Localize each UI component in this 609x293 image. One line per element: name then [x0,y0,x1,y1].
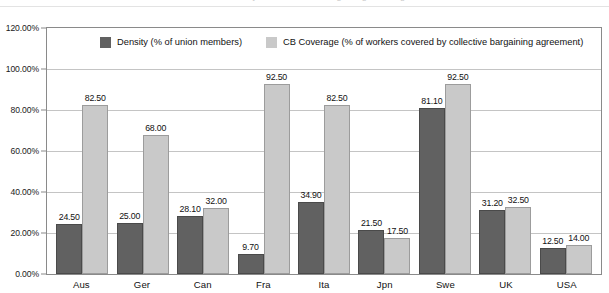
bar-usa-coverage[interactable]: 14.00 [566,245,592,274]
bar-usa-density[interactable]: 12.50 [540,248,566,274]
x-axis-tick-fra: Fra [233,276,294,293]
bars-container: 24.5082.5025.0068.0028.1032.009.7092.503… [47,28,601,274]
chart-legend: Density (% of union members)CB Coverage … [46,27,602,57]
bar-uk-density[interactable]: 31.20 [479,210,505,274]
bar-value-label: 34.90 [300,190,321,200]
legend-entry-cb-coverage[interactable]: CB Coverage (% of workers covered by col… [266,37,583,48]
bar-group-ger: 25.0068.00 [112,28,172,274]
x-axis-tick-ita: Ita [294,276,355,293]
bar-aus-coverage[interactable]: 82.50 [82,105,108,274]
x-axis-tick-swe: Swe [415,276,476,293]
plot-area: 24.5082.5025.0068.0028.1032.009.7092.503… [46,27,602,275]
bar-value-label: 25.00 [119,211,140,221]
bar-value-label: 21.50 [361,218,382,228]
bar-value-label: 81.10 [421,96,442,106]
bar-swe-coverage[interactable]: 92.50 [445,84,471,274]
bar-can-density[interactable]: 28.10 [177,216,203,274]
legend-label: Density (% of union members) [117,37,242,47]
bar-swe-density[interactable]: 81.10 [419,108,445,274]
legend-label: CB Coverage (% of workers covered by col… [283,37,583,47]
bar-value-label: 14.00 [568,233,589,243]
bar-value-label: 9.70 [242,242,258,252]
bar-value-label: 24.50 [59,212,80,222]
legend-swatch-icon [266,37,277,48]
bar-group-uk: 31.2032.50 [475,28,535,274]
y-axis-tick-label: 60.00% [10,146,39,156]
bar-group-fra: 9.7092.50 [233,28,293,274]
x-axis-tick-ger: Ger [112,276,173,293]
bar-value-label: 17.50 [387,226,408,236]
bar-group-swe: 81.1092.50 [415,28,475,274]
y-axis: 120.00%100.00%80.00%60.00%40.00%20.00%0.… [0,27,46,276]
bar-jpn-coverage[interactable]: 17.50 [384,238,410,274]
bar-value-label: 82.50 [85,93,106,103]
bar-ger-density[interactable]: 25.00 [117,223,143,274]
x-axis-tick-aus: Aus [51,276,112,293]
bar-value-label: 68.00 [145,123,166,133]
bar-value-label: 12.50 [542,236,563,246]
bar-jpn-density[interactable]: 21.50 [358,230,384,274]
bar-value-label: 82.50 [326,93,347,103]
bar-ita-coverage[interactable]: 82.50 [324,105,350,274]
y-axis-tick-label: 40.00% [10,187,39,197]
y-axis-tick-label: 80.00% [10,105,39,115]
x-axis-tick-usa: USA [536,276,597,293]
y-axis-tick-label: 0.00% [15,269,39,279]
bar-value-label: 92.50 [447,72,468,82]
y-axis-tick-label: 120.00% [6,23,39,33]
y-axis-tick-label: 100.00% [6,64,39,74]
bar-fra-coverage[interactable]: 92.50 [264,84,290,274]
legend-entry-density[interactable]: Density (% of union members) [100,37,242,48]
bar-chart: 120.00%100.00%80.00%60.00%40.00%20.00%0.… [0,8,609,293]
x-axis: AusGerCanFraItaJpnSweUKUSA [46,276,602,293]
bar-group-aus: 24.5082.50 [52,28,112,274]
bar-group-ita: 34.9082.50 [294,28,354,274]
bar-value-label: 28.10 [180,204,201,214]
bar-value-label: 31.20 [482,198,503,208]
bar-aus-density[interactable]: 24.50 [56,224,82,274]
legend-swatch-icon [100,37,111,48]
x-axis-tick-uk: UK [476,276,537,293]
bar-fra-density[interactable]: 9.70 [238,254,264,274]
bar-group-usa: 12.5014.00 [536,28,596,274]
bar-ita-density[interactable]: 34.90 [298,202,324,274]
x-axis-tick-can: Can [172,276,233,293]
top-rule [0,6,609,7]
bar-group-jpn: 21.5017.50 [354,28,414,274]
bar-uk-coverage[interactable]: 32.50 [505,207,531,274]
x-axis-tick-jpn: Jpn [354,276,415,293]
cropped-title-remnant: Union Density and Collective Bargaining … [0,0,609,7]
bar-can-coverage[interactable]: 32.00 [203,208,229,274]
bar-ger-coverage[interactable]: 68.00 [143,135,169,274]
bar-value-label: 32.50 [508,195,529,205]
cropped-title-text: Union Density and Collective Bargaining … [0,0,609,1]
y-axis-tick-label: 20.00% [10,228,39,238]
bar-group-can: 28.1032.00 [173,28,233,274]
bar-value-label: 92.50 [266,72,287,82]
bar-value-label: 32.00 [206,196,227,206]
